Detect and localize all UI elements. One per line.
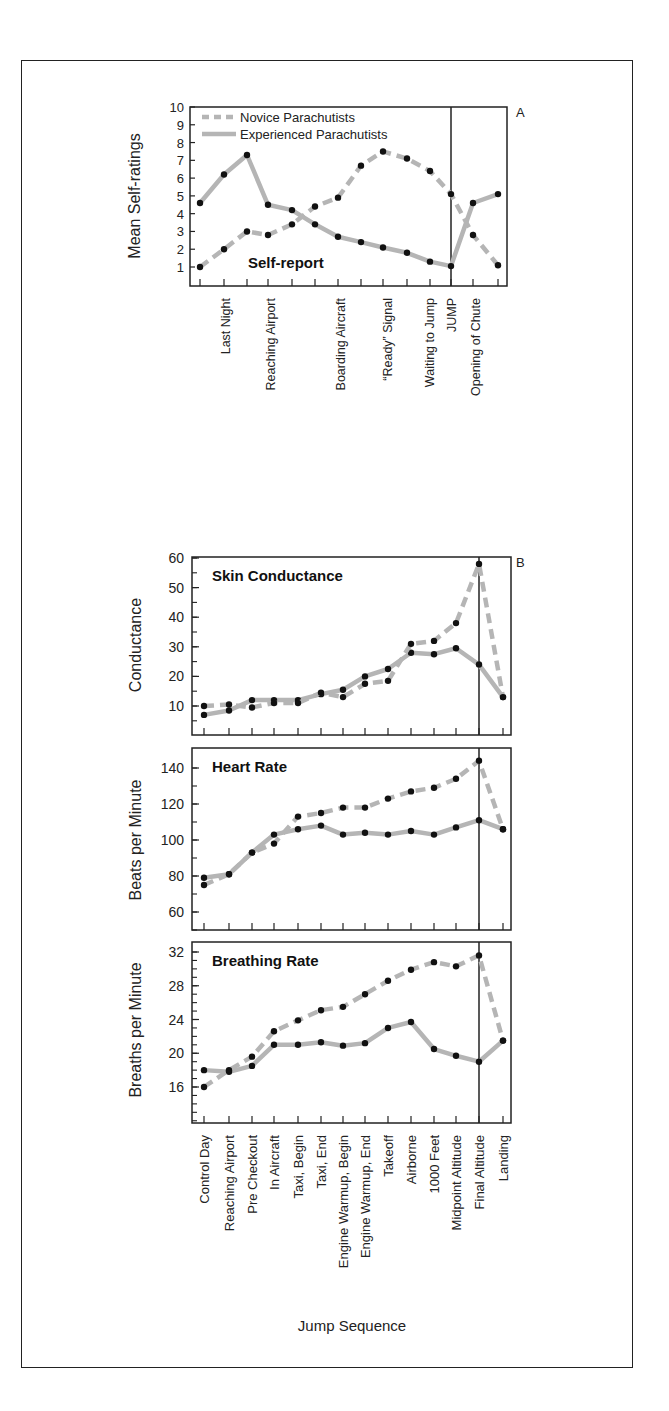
data-point: [221, 171, 227, 177]
data-point: [335, 234, 341, 240]
y-tick-label: 120: [161, 796, 185, 812]
x-category-label: “Ready” Signal: [381, 298, 395, 381]
data-point: [289, 207, 295, 213]
data-point: [500, 826, 506, 832]
data-point: [495, 191, 501, 197]
x-category-label: Waiting to Jump: [423, 298, 437, 387]
x-category-label: Opening of Chute: [469, 298, 483, 396]
panel-title: Heart Rate: [212, 758, 287, 775]
legend-novice: Novice Parachutists: [240, 110, 355, 125]
data-point: [385, 831, 391, 837]
x-category-label: 1000 Feet: [427, 1135, 442, 1194]
y-tick-label: 9: [177, 118, 184, 133]
data-point: [318, 1007, 324, 1013]
experienced-line: [200, 155, 498, 266]
x-category-label: Taxi, End: [314, 1135, 329, 1188]
data-point: [271, 1042, 277, 1048]
y-tick-label: 24: [168, 1012, 184, 1028]
data-point: [470, 200, 476, 206]
data-point: [340, 687, 346, 693]
panel-title: Breathing Rate: [212, 952, 319, 969]
y-tick-label: 60: [168, 904, 184, 920]
data-point: [226, 871, 232, 877]
y-axis-title: Mean Self-ratings: [126, 133, 143, 258]
x-category-label: Reaching Airport: [222, 1135, 237, 1231]
data-point: [244, 228, 250, 234]
data-point: [201, 1084, 207, 1090]
data-point: [362, 830, 368, 836]
data-point: [431, 959, 437, 965]
x-category-label: Pre Checkout: [245, 1135, 260, 1214]
data-point: [249, 1063, 255, 1069]
data-point: [340, 1004, 346, 1010]
data-point: [312, 221, 318, 227]
data-point: [476, 561, 482, 567]
data-point: [226, 1067, 232, 1073]
data-point: [271, 1028, 277, 1034]
data-point: [362, 1040, 368, 1046]
x-category-label: Boarding Aircraft: [334, 297, 348, 390]
data-point: [244, 152, 250, 158]
data-point: [295, 1017, 301, 1023]
x-category-label: Engine Warmup, Begin: [336, 1135, 351, 1268]
data-point: [226, 701, 232, 707]
data-point: [448, 191, 454, 197]
y-tick-label: 6: [177, 171, 184, 186]
y-tick-label: 4: [177, 207, 184, 222]
data-point: [201, 1067, 207, 1073]
x-category-label: Control Day: [197, 1135, 212, 1204]
data-point: [385, 678, 391, 684]
data-point: [408, 788, 414, 794]
data-point: [226, 707, 232, 713]
y-tick-label: 100: [161, 832, 185, 848]
y-tick-label: 30: [168, 639, 184, 655]
panel-title: Self-report: [248, 254, 324, 271]
data-point: [448, 263, 454, 269]
y-tick-label: 16: [168, 1079, 184, 1095]
data-point: [335, 194, 341, 200]
x-category-label: Taxi, Begin: [291, 1135, 306, 1199]
legend-experienced: Experienced Parachutists: [240, 127, 388, 142]
data-point: [318, 822, 324, 828]
y-tick-label: 80: [168, 868, 184, 884]
data-point: [340, 694, 346, 700]
data-point: [408, 967, 414, 973]
x-category-label: Last Night: [219, 297, 233, 354]
data-point: [431, 1046, 437, 1052]
experienced-line: [204, 1022, 503, 1072]
x-category-label: Engine Warmup, End: [358, 1135, 373, 1258]
data-point: [358, 162, 364, 168]
data-point: [362, 991, 368, 997]
y-tick-label: 10: [170, 100, 184, 115]
data-point: [318, 689, 324, 695]
data-point: [295, 826, 301, 832]
data-point: [385, 795, 391, 801]
chart-b-breathing-rate: 1620242832Breaths per MinuteBreathing Ra…: [127, 942, 511, 1123]
data-point: [249, 704, 255, 710]
data-point: [453, 776, 459, 782]
data-point: [431, 651, 437, 657]
data-point: [385, 1025, 391, 1031]
data-point: [476, 661, 482, 667]
data-point: [249, 697, 255, 703]
data-point: [271, 831, 277, 837]
parachutist-arousal-chart: 12345678910Mean Self-ratingsANovice Para…: [0, 0, 669, 1411]
data-point: [427, 168, 433, 174]
data-point: [295, 700, 301, 706]
data-point: [495, 262, 501, 268]
data-point: [500, 694, 506, 700]
x-category-label: Takeoff: [381, 1135, 396, 1177]
data-point: [265, 232, 271, 238]
data-point: [201, 875, 207, 881]
y-tick-label: 8: [177, 136, 184, 151]
data-point: [265, 202, 271, 208]
data-point: [249, 849, 255, 855]
data-point: [362, 673, 368, 679]
data-point: [362, 804, 368, 810]
panel-label: B: [516, 555, 525, 570]
y-tick-label: 50: [168, 580, 184, 596]
data-point: [380, 148, 386, 154]
data-point: [318, 810, 324, 816]
data-point: [385, 666, 391, 672]
x-category-label: Landing: [496, 1135, 511, 1181]
